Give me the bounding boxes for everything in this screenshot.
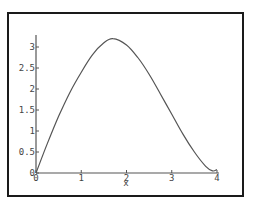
axis-ticks: 0123400.511.522.53 bbox=[19, 42, 220, 183]
data-line bbox=[36, 39, 217, 173]
x-axis-title: x bbox=[123, 178, 129, 188]
line-chart: 0123400.511.522.53 x bbox=[0, 0, 257, 211]
y-tick-label: 2.5 bbox=[19, 63, 35, 73]
axes bbox=[36, 35, 219, 173]
y-tick-label: 0.5 bbox=[19, 147, 35, 157]
y-tick-label: 1.5 bbox=[19, 105, 35, 115]
x-tick-label: 3 bbox=[169, 173, 174, 183]
y-tick-label: 3 bbox=[30, 42, 35, 52]
y-tick-label: 2 bbox=[30, 84, 35, 94]
x-tick-label: 4 bbox=[214, 173, 219, 183]
y-tick-label: 0 bbox=[30, 168, 35, 178]
x-tick-label: 1 bbox=[79, 173, 84, 183]
y-tick-label: 1 bbox=[30, 126, 35, 136]
